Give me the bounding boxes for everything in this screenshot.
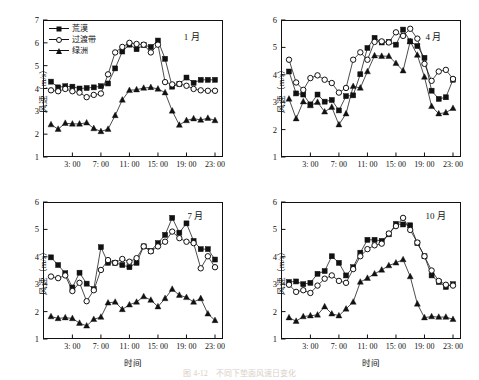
data-point-marker [127,265,132,270]
data-point-marker [134,47,139,52]
data-point-marker [357,279,363,285]
data-point-marker [176,292,182,298]
x-axis-tick-label: 19: 00 [414,342,434,351]
data-point-marker [429,313,435,319]
legend-item: 过渡带 [49,34,96,45]
data-point-marker [393,42,398,47]
x-axis-tick-label: 11: 00 [357,342,377,351]
x-axis-tick-label: 23: 00 [443,342,463,351]
data-point-marker [336,121,342,127]
data-point-marker [84,94,89,99]
data-point-marker [91,92,96,97]
legend-line [49,50,69,51]
data-point-marker [48,121,54,127]
data-point-marker [213,257,218,262]
data-point-marker [84,281,89,286]
y-axis-tick-label: 1 [265,334,277,344]
data-point-marker [400,256,406,262]
data-point-marker [379,53,385,59]
data-point-marker [436,96,441,101]
data-point-marker [358,72,363,77]
panel-title: 4 月 [425,30,441,43]
x-axis-tick-label: 23: 00 [205,160,225,169]
data-point-marker [308,280,313,285]
data-point-marker [294,91,299,96]
data-point-marker [386,231,391,236]
data-point-marker [287,69,292,74]
data-point-marker [162,79,167,84]
data-point-marker [393,223,398,228]
data-point-marker [213,77,218,82]
legend-item: 绿洲 [49,45,96,56]
data-point-marker [48,313,54,319]
data-point-marker [127,40,132,45]
data-point-marker [315,271,320,276]
data-point-marker [344,94,349,99]
data-point-marker [163,56,168,61]
data-point-marker [336,278,341,283]
y-axis-label: 风速（m/s） [36,56,48,122]
data-point-marker [372,237,377,242]
data-point-marker [169,286,175,292]
data-point-marker [212,88,217,93]
data-point-marker [286,314,292,320]
data-point-marker [198,266,203,271]
data-point-marker [112,299,118,305]
legend-line [49,28,69,29]
y-axis-tick-label: 5 [27,224,39,234]
data-point-marker [148,84,154,90]
data-point-marker [120,256,125,261]
data-point-marker [344,273,349,278]
data-point-marker [343,85,348,90]
x-axis-tick-label: 3: 00 [64,160,80,169]
data-point-marker [379,267,385,273]
data-point-marker [372,52,378,58]
y-axis-tick-label: 1 [265,152,277,162]
data-point-marker [365,45,370,50]
data-point-marker [184,239,189,244]
data-point-marker [429,88,434,93]
data-point-marker [343,110,349,116]
y-axis-label: 风速（m/s） [274,56,286,122]
data-point-marker [198,88,203,93]
data-point-marker [177,230,182,235]
data-point-marker [91,125,97,131]
data-point-marker [212,265,217,270]
data-point-marker [315,73,320,78]
y-axis-tick-label: 1 [27,152,39,162]
legend: 荒漠过渡带绿洲 [49,23,96,56]
data-point-marker [55,89,60,94]
data-point-marker [364,275,370,281]
data-point-marker [148,249,153,254]
data-point-marker [98,267,103,272]
y-axis-tick-label: 2 [265,125,277,135]
data-point-marker [134,41,139,46]
data-point-marker [148,297,154,303]
data-point-marker [421,74,427,80]
data-point-marker [308,290,313,295]
data-point-marker [372,270,378,276]
data-point-marker [329,104,335,110]
x-axis-tick-label: 15: 00 [148,342,168,351]
data-point-marker [56,263,61,268]
data-point-marker [301,282,306,287]
x-axis-tick-label: 7: 00 [331,160,347,169]
data-point-marker [329,273,334,278]
x-axis-tick-label: 15: 00 [386,342,406,351]
data-point-marker [336,108,341,113]
data-point-marker [141,244,146,249]
data-point-marker [170,215,175,220]
data-point-marker [322,77,327,82]
x-axis-tick-label: 11: 00 [119,160,139,169]
data-point-marker [177,81,182,86]
data-point-marker [322,99,327,104]
data-point-marker [408,227,413,232]
data-point-marker [77,280,82,285]
data-point-marker [105,72,110,77]
data-point-marker [293,115,299,121]
data-point-marker [400,215,405,220]
legend-item-label: 过渡带 [72,36,96,44]
data-point-marker [415,240,420,245]
y-axis-label: 风速（m/s） [274,238,286,304]
data-point-marker [62,120,68,126]
